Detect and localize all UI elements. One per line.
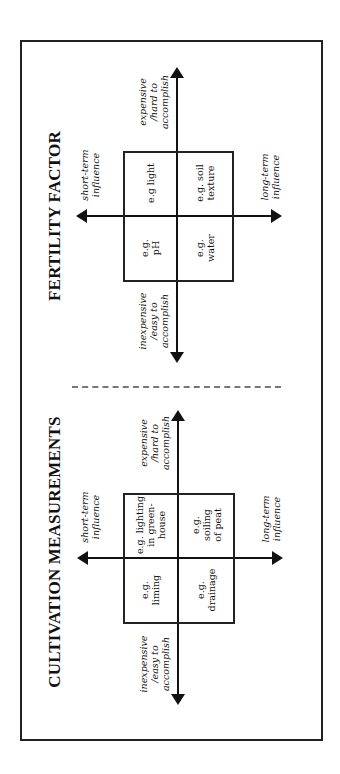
fertility-quadrant-box (123, 151, 234, 282)
fertility-cell-light: e.g light (145, 163, 156, 203)
cultivation-cell-lighting: e.g. lighting in green- house (134, 496, 167, 554)
fertility-inexpensive-label: inexpensive /easy to accomplish (137, 293, 170, 350)
arrow-left-icon (76, 209, 87, 223)
section-divider (72, 386, 281, 388)
cultivation-title: CULTIVATION MEASUREMENTS (45, 416, 65, 687)
fertility-cell-soil-texture: e.g. soil texture (194, 164, 216, 201)
arrow-left-icon (77, 551, 88, 565)
arrow-down-icon (171, 694, 185, 705)
fertility-expensive-label: expensive /hard to accomplish (137, 75, 170, 129)
page-frame (20, 40, 323, 741)
cultivation-cell-soiling-peat: e.g. soiling of peat (190, 508, 223, 541)
cultivation-cell-liming: e.g. liming (139, 575, 161, 605)
arrow-right-icon (271, 209, 282, 223)
fertility-long-term-label: long-term influence (259, 153, 281, 200)
cultivation-cell-drainage: e.g. drainage (195, 569, 217, 612)
fertility-title: FERTILITY FACTOR (45, 131, 65, 301)
cultivation-inexpensive-label: inexpensive /easy to accomplish (138, 636, 171, 693)
cultivation-short-term-label: short-term influence (79, 491, 101, 542)
arrow-up-icon (171, 410, 185, 421)
arrow-right-icon (272, 551, 283, 565)
fertility-short-term-label: short-term influence (79, 149, 101, 200)
fertility-cell-ph: e.g. pH (139, 239, 161, 257)
arrow-down-icon (170, 352, 184, 363)
arrow-up-icon (170, 67, 184, 78)
cultivation-long-term-label: long-term influence (260, 495, 282, 542)
fertility-cell-water: e.g. water (194, 234, 216, 262)
cultivation-expensive-label: expensive /hard to accomplish (138, 416, 171, 470)
